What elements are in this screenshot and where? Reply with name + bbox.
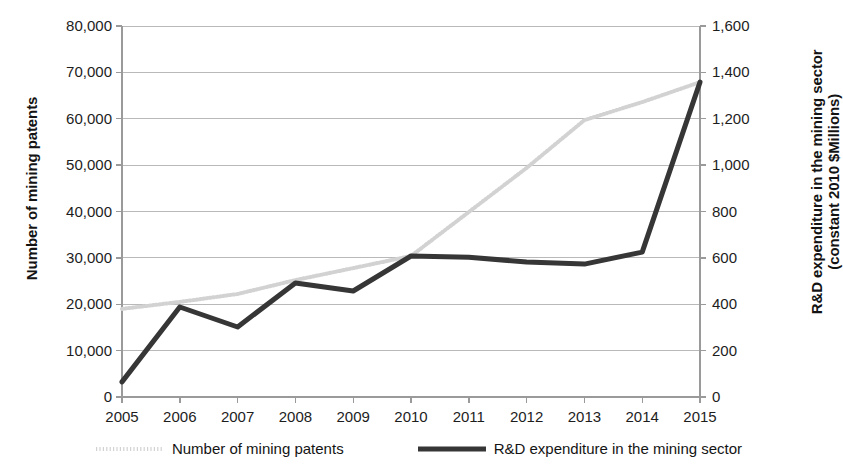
right-tick-label: 200 <box>712 342 782 359</box>
series-line <box>122 82 700 382</box>
x-tick-label: 2010 <box>381 408 441 425</box>
right-tick-label: 1,400 <box>712 63 782 80</box>
x-tick-label: 2012 <box>497 408 557 425</box>
legend-item[interactable]: R&D expenditure in the mining sector <box>416 440 742 457</box>
legend-swatch-solid-line-icon <box>416 442 488 456</box>
left-tick-label: 70,000 <box>26 63 112 80</box>
right-tick-label: 1,000 <box>712 156 782 173</box>
right-tick-label: 0 <box>712 388 782 405</box>
x-tick-label: 2013 <box>554 408 614 425</box>
x-tick-label: 2008 <box>265 408 325 425</box>
right-tick-label: 1,600 <box>712 17 782 34</box>
series-line <box>122 82 700 309</box>
x-tick-label: 2015 <box>670 408 730 425</box>
x-tick-label: 2014 <box>612 408 672 425</box>
left-tick-label: 80,000 <box>26 17 112 34</box>
legend-swatch-dotted-line-icon <box>94 442 166 456</box>
left-tick-label: 40,000 <box>26 203 112 220</box>
left-tick-label: 30,000 <box>26 249 112 266</box>
right-tick-label: 400 <box>712 295 782 312</box>
left-tick-label: 20,000 <box>26 295 112 312</box>
x-tick-label: 2011 <box>439 408 499 425</box>
left-tick-marks <box>116 26 122 397</box>
legend-label: Number of mining patents <box>172 440 344 457</box>
right-tick-label: 800 <box>712 203 782 220</box>
x-tick-label: 2009 <box>323 408 383 425</box>
left-tick-label: 0 <box>26 388 112 405</box>
legend-item[interactable]: Number of mining patents <box>94 440 344 457</box>
left-tick-label: 10,000 <box>26 342 112 359</box>
x-tick-label: 2005 <box>92 408 152 425</box>
right-tick-label: 1,200 <box>712 110 782 127</box>
legend-label: R&D expenditure in the mining sector <box>494 440 742 457</box>
right-tick-label: 600 <box>712 249 782 266</box>
series-lines-group <box>122 82 700 382</box>
chart-legend: Number of mining patentsR&D expenditure … <box>0 440 836 457</box>
x-tick-label: 2007 <box>208 408 268 425</box>
x-tick-label: 2006 <box>150 408 210 425</box>
left-tick-label: 50,000 <box>26 156 112 173</box>
left-tick-label: 60,000 <box>26 110 112 127</box>
gridlines-group <box>122 26 700 397</box>
x-tick-marks <box>122 397 700 403</box>
